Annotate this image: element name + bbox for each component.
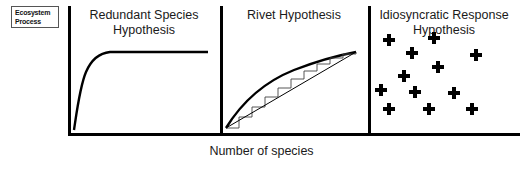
panel-redundant-species: Redundant Species Hypothesis: [68, 6, 220, 136]
scatter-plus-markers: [375, 32, 482, 115]
panel-rivet: Rivet Hypothesis: [220, 6, 368, 136]
panel-2-plot: [220, 6, 368, 136]
y-axis-label-box: Ecosystem Process: [11, 6, 59, 28]
y-axis-label-line-1: Ecosystem: [15, 8, 56, 17]
panel-idiosyncratic-response: Idiosyncratic Response Hypothesis: [368, 6, 520, 136]
panel-1-plot: [68, 6, 220, 136]
panel-3-plot: [368, 6, 520, 136]
figure-container: Ecosystem Process Redundant Species Hypo…: [0, 0, 523, 170]
rivet-linear-reference: [226, 52, 356, 128]
x-axis-caption: Number of species: [0, 144, 523, 158]
saturating-curve: [74, 52, 208, 130]
y-axis-label-line-2: Process: [15, 17, 56, 26]
